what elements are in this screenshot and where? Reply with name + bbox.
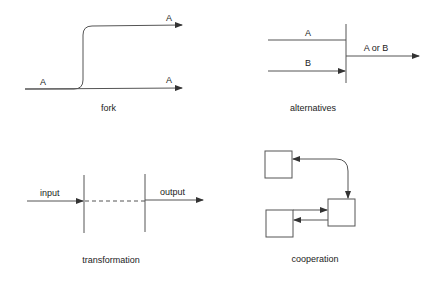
transformation-diagram: input output transformation (27, 174, 203, 265)
cooperation-diagram: cooperation (265, 151, 355, 264)
transformation-output-label: output (160, 187, 186, 197)
cooperation-box-right (328, 199, 355, 226)
alternatives-input-b-label: B (305, 58, 311, 68)
fork-input-label: A (40, 77, 46, 87)
fork-upper-branch (25, 25, 182, 89)
cooperation-caption: cooperation (291, 254, 338, 264)
fork-diagram: A A A fork (25, 13, 182, 113)
fork-lower-branch (25, 88, 182, 89)
transformation-input-label: input (40, 188, 60, 198)
transformation-caption: transformation (82, 255, 140, 265)
cooperation-box-bottom-left (266, 210, 293, 237)
fork-caption: fork (101, 103, 117, 113)
diagram-canvas: A A A fork A B A or B alternatives input… (0, 0, 438, 281)
cooperation-curve-to-right (336, 159, 348, 198)
fork-output-top-label: A (166, 13, 172, 23)
alternatives-input-a-label: A (305, 28, 311, 38)
alternatives-caption: alternatives (290, 103, 337, 113)
fork-output-bottom-label: A (166, 75, 172, 85)
alternatives-diagram: A B A or B alternatives (268, 24, 419, 113)
cooperation-box-top-left (265, 151, 292, 178)
alternatives-output-label: A or B (364, 43, 389, 53)
